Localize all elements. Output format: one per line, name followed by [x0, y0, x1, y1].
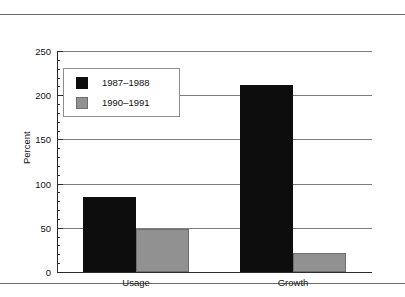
x-axis-line — [57, 272, 372, 273]
y-minor-tick-130 — [57, 157, 60, 158]
y-major-tick-250 — [57, 51, 63, 52]
y-minor-tick-40 — [57, 237, 60, 238]
y-tick-label-0: 0 — [5, 268, 51, 278]
chart-legend: 1987–1988 1990–1991 — [63, 68, 180, 117]
legend-swatch-black-icon — [76, 77, 88, 89]
y-minor-tick-70 — [57, 210, 60, 211]
y-minor-tick-110 — [57, 175, 60, 176]
x-tick-label-usage: Usage — [96, 278, 176, 288]
y-major-tick-150 — [57, 139, 63, 140]
legend-label-1990-1991: 1990–1991 — [102, 98, 150, 108]
y-major-tick-0 — [57, 272, 63, 273]
y-minor-tick-170 — [57, 122, 60, 123]
bar-usage-1990-1991 — [136, 229, 189, 272]
y-minor-tick-30 — [57, 245, 60, 246]
x-tick-label-growth: Growth — [253, 278, 333, 288]
y-minor-tick-60 — [57, 219, 60, 220]
y-minor-tick-210 — [57, 86, 60, 87]
y-minor-tick-230 — [57, 69, 60, 70]
bar-growth-1990-1991 — [293, 253, 346, 272]
y-minor-tick-160 — [57, 131, 60, 132]
legend-label-1987-1988: 1987–1988 — [102, 78, 150, 88]
gridline-250 — [57, 51, 372, 52]
bar-chart: Percent 250 200 150 100 50 0 Usage Growt — [0, 20, 405, 278]
y-minor-tick-120 — [57, 166, 60, 167]
y-minor-tick-220 — [57, 78, 60, 79]
y-tick-label-50: 50 — [5, 224, 51, 234]
bar-usage-1987-1988 — [83, 197, 136, 272]
gridline-150 — [57, 139, 372, 140]
legend-swatch-gray-icon — [76, 97, 88, 109]
y-minor-tick-20 — [57, 254, 60, 255]
bar-growth-1987-1988 — [240, 85, 293, 272]
gridline-100 — [57, 184, 372, 185]
y-minor-tick-240 — [57, 60, 60, 61]
y-tick-label-150: 150 — [5, 135, 51, 145]
y-major-tick-50 — [57, 228, 63, 229]
y-tick-label-100: 100 — [5, 180, 51, 190]
top-horizontal-rule — [0, 14, 405, 15]
y-tick-label-250: 250 — [5, 47, 51, 57]
y-minor-tick-190 — [57, 104, 60, 105]
y-major-tick-100 — [57, 184, 63, 185]
y-minor-tick-180 — [57, 113, 60, 114]
y-minor-tick-140 — [57, 148, 60, 149]
chart-page: Percent 250 200 150 100 50 0 Usage Growt — [0, 0, 405, 297]
bottom-horizontal-rule — [0, 283, 405, 284]
y-minor-tick-10 — [57, 263, 60, 264]
y-tick-label-200: 200 — [5, 91, 51, 101]
y-minor-tick-80 — [57, 201, 60, 202]
y-minor-tick-90 — [57, 192, 60, 193]
